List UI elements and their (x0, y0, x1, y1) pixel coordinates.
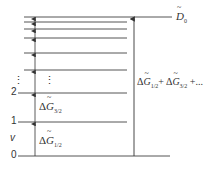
sum-label: ΔG1/2+ ΔG3/2 +... (137, 77, 203, 89)
ellipsis-left: ⋮ (13, 75, 24, 86)
delta-g-3-2-label: ΔG3/2 (39, 101, 62, 114)
axis-label-v: v (10, 133, 15, 143)
label-v0: 0 (11, 150, 17, 160)
label-v1: 1 (11, 116, 17, 126)
d0-label: D0 (176, 11, 187, 24)
delta-g-1-2-label: ΔG1/2 (39, 135, 62, 148)
label-v2: 2 (11, 87, 17, 97)
ellipsis-middle: ⋮ (44, 75, 55, 86)
